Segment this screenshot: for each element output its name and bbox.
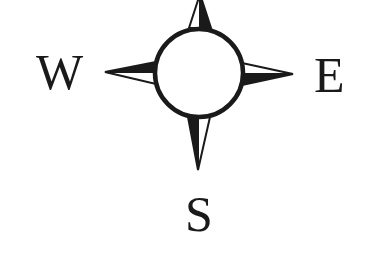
- north-point: [189, 0, 211, 28]
- east-point: [242, 63, 293, 85]
- east-label: E: [314, 50, 345, 100]
- west-label: W: [36, 47, 83, 97]
- south-label: S: [185, 189, 213, 239]
- west-point: [105, 62, 156, 84]
- south-point: [188, 117, 210, 170]
- center-ring: [155, 29, 243, 117]
